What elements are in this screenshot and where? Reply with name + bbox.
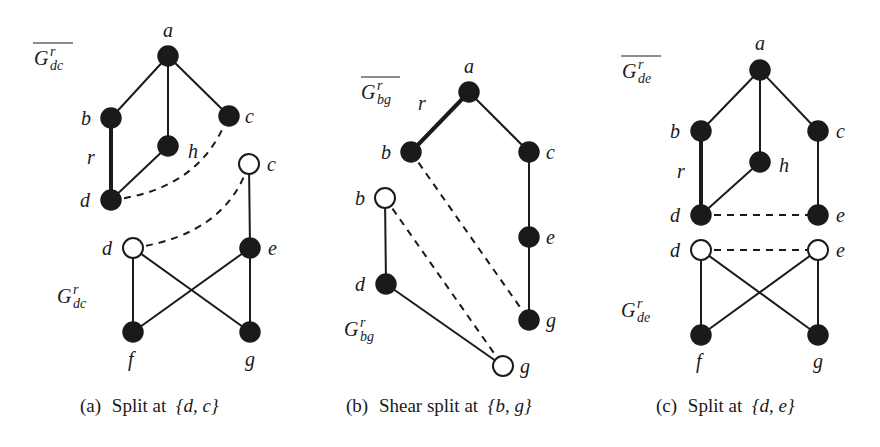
caption-prefix: (a) bbox=[80, 395, 101, 417]
label-g: g bbox=[813, 350, 823, 373]
graph-sup: r bbox=[377, 78, 383, 93]
node-b bbox=[401, 142, 421, 162]
label-f: f bbox=[128, 348, 136, 371]
edge-a-b bbox=[701, 70, 760, 131]
label-c: c bbox=[546, 141, 555, 163]
node-c-open bbox=[239, 154, 259, 174]
panel-a: G r dc a b c h d c d e bbox=[33, 19, 277, 417]
graph-sub: bg bbox=[377, 92, 391, 107]
graph-sup: r bbox=[50, 44, 56, 59]
caption-text: Shear split at bbox=[379, 395, 479, 416]
figure-canvas: G r dc a b c h d c d e bbox=[0, 0, 880, 447]
graph-sub: dc bbox=[73, 296, 87, 311]
node-d-open bbox=[123, 238, 143, 258]
node-d bbox=[691, 205, 711, 225]
label-b-open: b bbox=[355, 187, 365, 209]
node-e bbox=[240, 238, 260, 258]
node-a bbox=[750, 60, 770, 80]
edge-b-g-virtual-lower bbox=[385, 198, 503, 366]
caption-prefix: (b) bbox=[346, 395, 368, 417]
edge-h-d bbox=[111, 146, 168, 200]
panel-c-lower-graph-label: G r de bbox=[621, 296, 650, 325]
graph-sub: bg bbox=[360, 329, 374, 344]
caption-text: Split at bbox=[688, 395, 743, 416]
label-g-open: g bbox=[520, 355, 530, 378]
caption-set: {b, g} bbox=[488, 395, 532, 416]
edge-b-g-virtual bbox=[411, 152, 529, 320]
label-d: d bbox=[355, 273, 366, 295]
edge-label-r: r bbox=[418, 92, 426, 114]
label-a: a bbox=[163, 19, 173, 41]
edge-a-c bbox=[469, 92, 529, 152]
node-d bbox=[101, 190, 121, 210]
node-g-open bbox=[493, 356, 513, 376]
node-c bbox=[519, 142, 539, 162]
graph-sub: de bbox=[637, 310, 650, 325]
edge-b-d bbox=[385, 198, 386, 284]
panel-b-upper-graph-label: G r bg bbox=[361, 77, 400, 107]
graph-symbol: G bbox=[622, 60, 637, 82]
label-e-open: e bbox=[836, 239, 845, 261]
caption-text: Split at bbox=[112, 395, 167, 416]
node-d bbox=[376, 274, 396, 294]
graph-symbol: G bbox=[344, 318, 359, 340]
edge-a-c bbox=[168, 56, 229, 116]
label-e: e bbox=[836, 204, 845, 226]
panel-c-upper-graph-label: G r de bbox=[621, 56, 661, 86]
label-e: e bbox=[546, 226, 555, 248]
graph-symbol: G bbox=[621, 299, 636, 321]
caption-b: (b) Shear split at {b, g} bbox=[346, 395, 532, 417]
panel-b: G r bg a b c e g b d g r G r bbox=[344, 55, 556, 417]
label-d-open: d bbox=[102, 237, 113, 259]
edge-c-e bbox=[249, 164, 250, 248]
node-b bbox=[691, 121, 711, 141]
label-b: b bbox=[81, 107, 91, 129]
figure: G r dc a b c h d c d e bbox=[0, 0, 880, 447]
caption-c: (c) Split at {d, e} bbox=[656, 395, 795, 417]
node-b-open bbox=[375, 188, 395, 208]
edge-a-b bbox=[111, 56, 168, 118]
node-h bbox=[750, 152, 770, 172]
node-g bbox=[519, 310, 539, 330]
node-a bbox=[158, 46, 178, 66]
graph-symbol: G bbox=[361, 81, 376, 103]
panel-a-upper-graph-label: G r dc bbox=[33, 43, 73, 73]
graph-sup: r bbox=[637, 296, 643, 311]
node-b bbox=[101, 108, 121, 128]
label-g: g bbox=[245, 348, 255, 371]
label-a: a bbox=[464, 55, 474, 77]
node-g bbox=[240, 322, 260, 342]
graph-symbol: G bbox=[57, 285, 72, 307]
edge-d-g bbox=[386, 284, 503, 366]
node-f bbox=[123, 322, 143, 342]
label-f: f bbox=[696, 350, 704, 373]
node-c bbox=[219, 106, 239, 126]
label-b: b bbox=[670, 120, 680, 142]
label-a: a bbox=[755, 32, 765, 54]
panel-a-lower-graph-label: G r dc bbox=[57, 282, 87, 311]
graph-sup: r bbox=[360, 315, 366, 330]
graph-sub: dc bbox=[50, 58, 64, 73]
node-e-open bbox=[808, 240, 828, 260]
edge-h-d bbox=[701, 162, 760, 215]
node-f bbox=[691, 325, 711, 345]
panel-c: G r de a b c h d e d e bbox=[621, 32, 845, 417]
label-d-open: d bbox=[670, 239, 681, 261]
edge-label-r: r bbox=[677, 160, 685, 182]
caption-set: {d, e} bbox=[752, 395, 795, 416]
panel-b-lower-graph-label: G r bg bbox=[344, 315, 374, 344]
node-g bbox=[808, 325, 828, 345]
node-c bbox=[808, 121, 828, 141]
node-d-open bbox=[691, 240, 711, 260]
graph-sup: r bbox=[73, 282, 79, 297]
label-h: h bbox=[188, 140, 198, 162]
graph-sup: r bbox=[638, 57, 644, 72]
graph-sub: de bbox=[638, 71, 651, 86]
caption-set: {d, c} bbox=[176, 395, 219, 416]
label-b: b bbox=[381, 141, 391, 163]
label-e: e bbox=[268, 237, 277, 259]
node-e bbox=[808, 205, 828, 225]
caption-a: (a) Split at {d, c} bbox=[80, 395, 219, 417]
label-c: c bbox=[245, 105, 254, 127]
edge-label-r: r bbox=[87, 146, 95, 168]
